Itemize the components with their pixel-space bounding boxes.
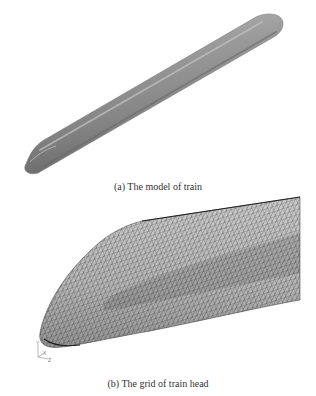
svg-text:Y: Y bbox=[36, 340, 40, 346]
subfigure-b-train-head-grid: Y X Z bbox=[0, 195, 316, 370]
caption-b: (b) The grid of train head bbox=[0, 378, 316, 389]
subfigure-a-train-model bbox=[0, 0, 316, 185]
svg-text:X: X bbox=[43, 350, 47, 356]
caption-a: (a) The model of train bbox=[0, 181, 316, 192]
train-head-mesh-render: Y X Z bbox=[0, 195, 316, 370]
train-model-render bbox=[0, 0, 316, 185]
svg-text:Z: Z bbox=[48, 357, 51, 363]
train-body-shape bbox=[25, 14, 283, 174]
